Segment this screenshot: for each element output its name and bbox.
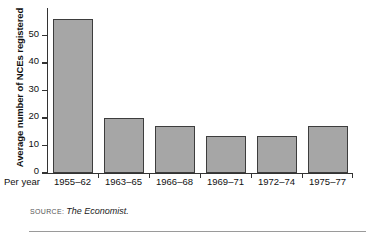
y-axis-tick: 0 <box>42 172 47 173</box>
x-axis-category-label: 1969–71 <box>200 176 251 187</box>
plot-area: 01020304050 <box>47 8 353 173</box>
bar <box>53 19 93 173</box>
y-axis-tick-label: 40 <box>28 55 39 66</box>
bar <box>104 118 144 173</box>
y-axis-tick: 40 <box>42 62 47 63</box>
y-axis-tick-label: 20 <box>28 110 39 121</box>
y-axis-tick: 20 <box>42 117 47 118</box>
y-axis-tick: 30 <box>42 90 47 91</box>
x-axis-category-label: 1955–62 <box>47 176 98 187</box>
y-axis-tick: 50 <box>42 35 47 36</box>
y-axis-line <box>47 8 48 173</box>
x-axis-category-label: 1972–74 <box>251 176 302 187</box>
source-note: SOURCE:The Economist. <box>30 206 129 216</box>
bar <box>308 126 348 173</box>
source-label: SOURCE: <box>30 208 64 215</box>
x-axis-category-label: 1966–68 <box>149 176 200 187</box>
bar <box>257 136 297 173</box>
x-axis-category-labels: 1955–621963–651966–681969–711972–741975–… <box>47 176 353 190</box>
y-axis-tick-label: 10 <box>28 138 39 149</box>
y-axis-tick-label: 0 <box>34 165 39 176</box>
bar <box>155 126 195 173</box>
bottom-divider <box>29 231 366 232</box>
y-axis-title: Average number of NCEs registered <box>14 3 25 173</box>
x-axis-category-label: 1975–77 <box>302 176 353 187</box>
chart-figure: Average number of NCEs registered 010203… <box>0 0 380 243</box>
bar <box>206 136 246 173</box>
x-axis-unit-label: Per year <box>4 176 40 187</box>
y-axis-tick: 10 <box>42 145 47 146</box>
y-axis-tick-label: 30 <box>28 83 39 94</box>
x-axis-category-label: 1963–65 <box>98 176 149 187</box>
source-value: The Economist. <box>66 206 129 216</box>
y-axis-tick-label: 50 <box>28 28 39 39</box>
